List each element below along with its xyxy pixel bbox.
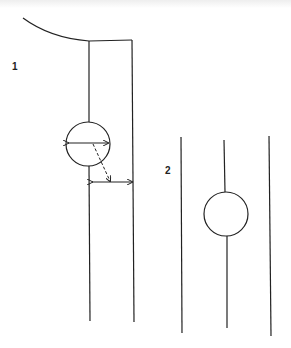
- right-line: [132, 40, 134, 322]
- middle-line-upper: [224, 140, 225, 192]
- dashed-arrow: [93, 144, 110, 181]
- curved-wall: [23, 18, 89, 41]
- panel-1-label: 1: [12, 61, 18, 72]
- panel-2: 2: [165, 136, 271, 336]
- right-line: [269, 136, 271, 336]
- measured-circle: [66, 122, 110, 166]
- panel-1: 1: [12, 18, 134, 322]
- panel-2-label: 2: [165, 165, 171, 176]
- left-line-lower: [89, 166, 90, 321]
- centered-circle: [204, 192, 248, 236]
- diagram-canvas: 1 2: [0, 0, 291, 348]
- left-line: [181, 137, 182, 333]
- top-edge: [89, 40, 132, 41]
